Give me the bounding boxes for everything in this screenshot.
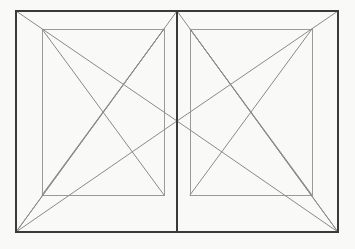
figure-svg (0, 0, 355, 249)
drawing-canvas (0, 0, 355, 249)
